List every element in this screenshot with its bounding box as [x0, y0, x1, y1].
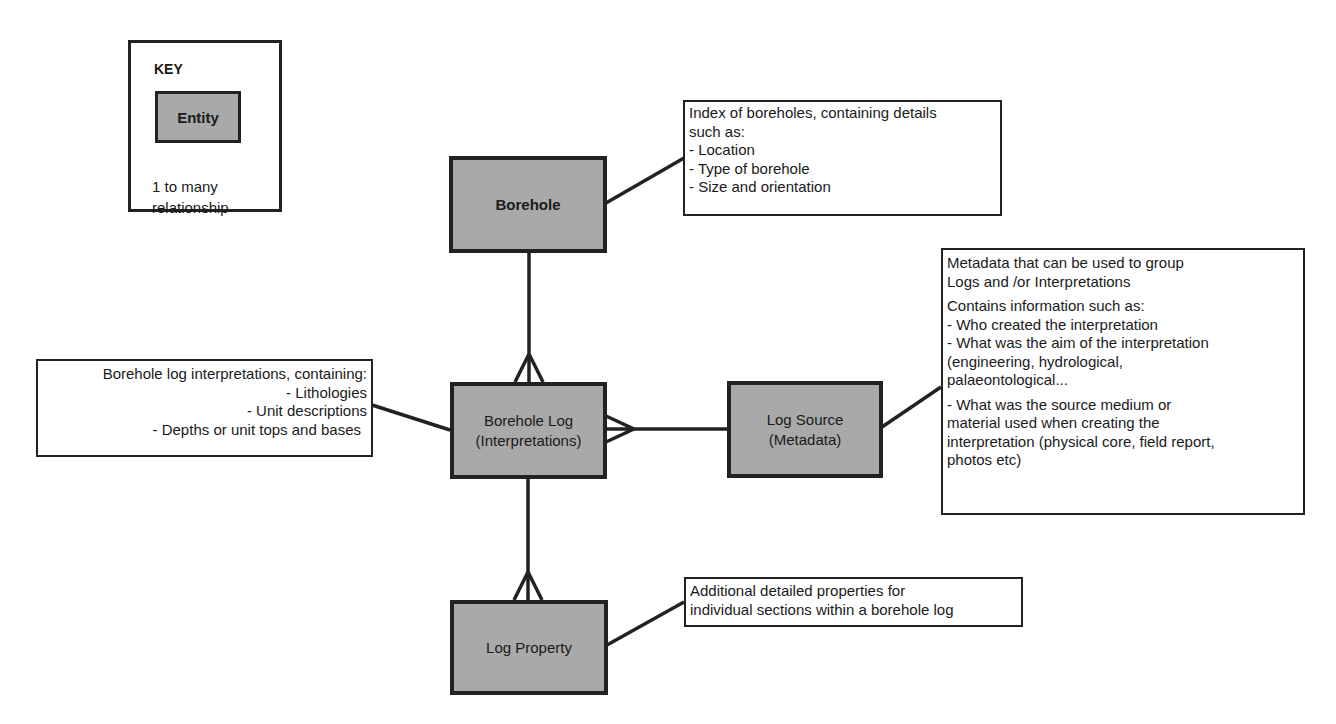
- leader-property-note: [607, 602, 684, 645]
- note-log-property: Additional detailed properties for indiv…: [684, 577, 1023, 627]
- entity-log-source-sublabel: (Metadata): [769, 430, 842, 450]
- leader-borehole-note: [606, 158, 684, 203]
- note-line: Logs and /or Interpretations: [947, 273, 1299, 292]
- note-line: Metadata that can be used to group: [947, 254, 1299, 273]
- note-borehole: Index of boreholes, containing details s…: [683, 100, 1002, 216]
- legend-entity-swatch: Entity: [155, 91, 241, 143]
- entity-log-source-label: Log Source: [767, 410, 844, 430]
- entity-borehole-label: Borehole: [495, 195, 560, 215]
- note-line: - Location: [689, 141, 996, 160]
- note-line: Index of boreholes, containing details: [689, 104, 996, 123]
- legend-relationship-label: 1 to many relationship: [152, 176, 229, 218]
- entity-log-property-label: Log Property: [486, 638, 572, 658]
- note-line: - Who created the interpretation: [947, 316, 1299, 335]
- crows-foot-icon: [514, 572, 528, 600]
- leader-source-note: [882, 387, 941, 427]
- note-line: (engineering, hydrological,: [947, 353, 1299, 372]
- entity-log-property: Log Property: [450, 600, 608, 695]
- entity-borehole: Borehole: [449, 156, 607, 253]
- note-log-source: Metadata that can be used to group Logs …: [941, 248, 1305, 515]
- note-line: - What was the aim of the interpretation: [947, 334, 1299, 353]
- entity-borehole-log-label: Borehole Log: [484, 411, 573, 431]
- note-line: - Unit descriptions: [42, 402, 367, 421]
- note-line: - Lithologies: [42, 384, 367, 403]
- note-line: such as:: [689, 123, 996, 142]
- legend: KEY Entity 1 to many relationship: [128, 40, 282, 212]
- legend-entity-label: Entity: [177, 109, 219, 126]
- leader-log-note: [372, 405, 450, 430]
- note-line: Borehole log interpretations, containing…: [42, 365, 367, 384]
- note-line: - Type of borehole: [689, 160, 996, 179]
- note-line: interpretation (physical core, field rep…: [947, 433, 1299, 452]
- crows-foot-icon: [515, 354, 529, 382]
- note-borehole-log: Borehole log interpretations, containing…: [36, 359, 373, 457]
- note-line: individual sections within a borehole lo…: [690, 601, 1017, 620]
- legend-title: KEY: [154, 61, 183, 77]
- entity-log-source: Log Source (Metadata): [727, 381, 883, 478]
- entity-borehole-log: Borehole Log (Interpretations): [450, 382, 607, 479]
- note-line: material used when creating the: [947, 414, 1299, 433]
- entity-borehole-log-sublabel: (Interpretations): [476, 431, 582, 451]
- crows-foot-icon: [606, 416, 634, 429]
- note-line: Additional detailed properties for: [690, 582, 1017, 601]
- note-line: Contains information such as:: [947, 297, 1299, 316]
- note-line: photos etc): [947, 451, 1299, 470]
- note-line: - What was the source medium or: [947, 396, 1299, 415]
- note-line: palaeontological...: [947, 371, 1299, 390]
- note-line: - Depths or unit tops and bases: [42, 421, 367, 440]
- note-line: - Size and orientation: [689, 178, 996, 197]
